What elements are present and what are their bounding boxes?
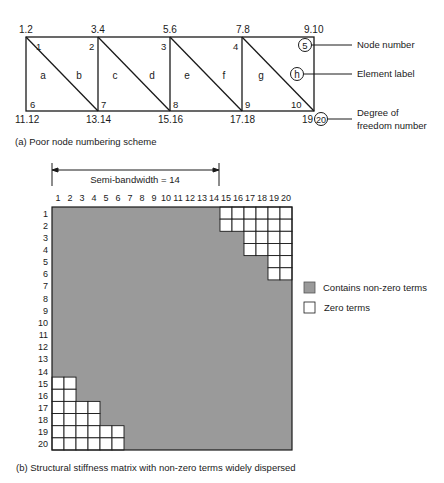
row-label: 8	[43, 294, 48, 304]
dof-label: 15.16	[158, 114, 183, 125]
dof-top-labels: 1.2 3.4 5.6 7.8 9.10	[19, 24, 324, 35]
row-label: 3	[43, 233, 48, 243]
row-label: 10	[38, 318, 48, 328]
column-label: 8	[139, 193, 144, 203]
row-label: 2	[43, 221, 48, 231]
column-label: 3	[79, 193, 84, 203]
row-label: 18	[38, 415, 48, 425]
zero-cell	[232, 219, 244, 231]
zero-cell	[64, 377, 76, 389]
matrix-column-labels: 1234567891011121314151617181920	[55, 193, 291, 203]
legend-a: Node number Element label Degree of free…	[357, 39, 427, 131]
zero-cell	[268, 268, 280, 280]
dof-label: 19	[302, 114, 314, 125]
zero-cell	[64, 426, 76, 438]
row-label: 16	[38, 391, 48, 401]
zero-cell	[52, 438, 64, 450]
legend-dof-line2: freedom number	[357, 120, 427, 131]
column-label: 16	[233, 193, 243, 203]
column-label: 19	[269, 193, 279, 203]
node-number: 9	[245, 99, 250, 110]
node-number: 4	[233, 41, 238, 52]
zero-cell	[76, 426, 88, 438]
element-label: b	[76, 70, 82, 81]
truss-mesh	[26, 37, 314, 111]
column-label: 2	[67, 193, 72, 203]
zero-cell	[76, 401, 88, 413]
legend-nonzero-swatch	[304, 282, 315, 293]
element-label: c	[113, 70, 118, 81]
legend-zero-swatch	[304, 302, 315, 313]
zero-cell	[220, 207, 232, 219]
legend-dof-line1: Degree of	[357, 107, 399, 118]
zero-cell	[256, 231, 268, 243]
node-number: 1	[36, 41, 41, 52]
zero-cell	[88, 414, 100, 426]
row-label: 5	[43, 257, 48, 267]
row-label: 20	[38, 439, 48, 449]
column-label: 18	[257, 193, 267, 203]
zero-cell	[52, 426, 64, 438]
zero-cell	[280, 243, 292, 255]
zero-cell	[256, 207, 268, 219]
dof-label: 3.4	[91, 24, 105, 35]
dof-label: 13.14	[86, 114, 111, 125]
dof-label: 1.2	[19, 24, 33, 35]
legend-zero-label: Zero terms	[324, 302, 370, 313]
zero-cell	[268, 231, 280, 243]
column-label: 17	[245, 193, 255, 203]
node-number: 7	[101, 99, 106, 110]
node-number: 8	[173, 99, 178, 110]
legend-nonzero-label: Contains non-zero terms	[323, 282, 427, 293]
matrix-row-labels: 1234567891011121314151617181920	[38, 209, 48, 450]
legend-node-number: Node number	[357, 39, 415, 50]
zero-cell	[232, 207, 244, 219]
zero-cell	[244, 231, 256, 243]
row-label: 6	[43, 269, 48, 279]
mesh-diagonal	[170, 37, 242, 111]
dof-label: 17.18	[230, 114, 255, 125]
column-label: 12	[185, 193, 195, 203]
dof-circled-label: 20	[316, 115, 326, 125]
zero-cell	[88, 438, 100, 450]
column-label: 13	[197, 193, 207, 203]
element-labels: a b c d e f g	[40, 70, 264, 81]
node-number: 6	[30, 99, 35, 110]
caption-a: (a) Poor node numbering scheme	[15, 136, 157, 147]
zero-cell	[256, 243, 268, 255]
row-label: 1	[43, 209, 48, 219]
node-number-circled: 5	[302, 40, 307, 51]
dof-bottom-labels: 11.12 13.14 15.16 17.18 19	[15, 114, 314, 125]
zero-cell	[244, 207, 256, 219]
zero-cell	[76, 438, 88, 450]
mesh-diagonal	[98, 37, 170, 111]
zero-cell	[100, 426, 112, 438]
zero-cell	[280, 207, 292, 219]
legend-element-label: Element label	[357, 68, 415, 79]
row-label: 17	[38, 403, 48, 413]
zero-cell	[268, 256, 280, 268]
zero-cell	[64, 389, 76, 401]
stiffness-diagram: 1.2 3.4 5.6 7.8 9.10 11.12 13.14 15.16 1…	[0, 0, 444, 483]
row-label: 11	[39, 330, 48, 340]
row-label: 19	[38, 427, 48, 437]
element-label: d	[149, 70, 155, 81]
zero-cell	[268, 207, 280, 219]
zero-cell	[64, 414, 76, 426]
node-number: 10	[291, 99, 302, 110]
zero-cell	[280, 219, 292, 231]
dof-label: 5.6	[163, 24, 177, 35]
zero-cell	[52, 414, 64, 426]
zero-cell	[52, 389, 64, 401]
zero-cell	[244, 243, 256, 255]
zero-cell	[52, 377, 64, 389]
zero-cell	[64, 438, 76, 450]
zero-cell	[256, 219, 268, 231]
semi-bandwidth-label: Semi-bandwidth = 14	[90, 174, 180, 185]
column-label: 14	[209, 193, 219, 203]
zero-cell	[268, 219, 280, 231]
node-number: 2	[89, 41, 94, 52]
column-label: 9	[151, 193, 156, 203]
zero-cell	[64, 401, 76, 413]
row-label: 12	[38, 342, 48, 352]
